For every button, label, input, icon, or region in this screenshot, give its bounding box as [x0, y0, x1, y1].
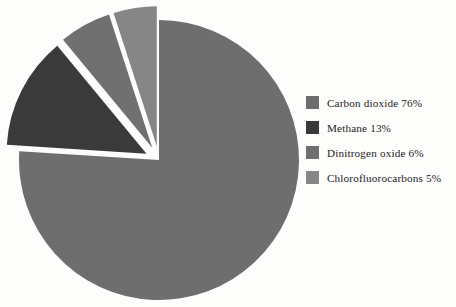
- pie-chart-plot-area: [0, 0, 300, 307]
- legend-swatch-icon: [306, 121, 319, 134]
- legend-item-label: Dinitrogen oxide 6%: [327, 147, 424, 159]
- pie-slice-group: [7, 6, 299, 300]
- legend-swatch-icon: [306, 146, 319, 159]
- legend-item-label: Carbon dioxide 76%: [327, 97, 422, 109]
- legend-item-carbon-dioxide[interactable]: Carbon dioxide 76%: [306, 90, 456, 115]
- legend-item-label: Chlorofluorocarbons 5%: [327, 172, 441, 184]
- pie-chart-figure: Carbon dioxide 76% Methane 13% Dinitroge…: [0, 0, 456, 307]
- legend-swatch-icon: [306, 96, 319, 109]
- legend-item-chlorofluorocarbons[interactable]: Chlorofluorocarbons 5%: [306, 165, 456, 190]
- legend-item-methane[interactable]: Methane 13%: [306, 115, 456, 140]
- legend-item-label: Methane 13%: [327, 122, 391, 134]
- legend-item-dinitrogen-oxide[interactable]: Dinitrogen oxide 6%: [306, 140, 456, 165]
- pie-chart-svg: [0, 0, 300, 307]
- legend-swatch-icon: [306, 171, 319, 184]
- chart-legend: Carbon dioxide 76% Methane 13% Dinitroge…: [306, 90, 456, 190]
